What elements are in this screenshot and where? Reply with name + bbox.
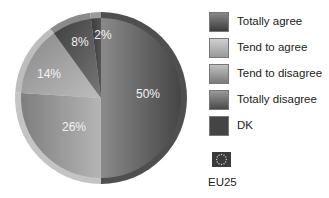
- legend-label: Totally agree: [237, 15, 302, 27]
- swatch-tend-to-agree: [209, 38, 229, 58]
- legend-item-totally-agree: Totally agree: [209, 12, 329, 32]
- swatch-totally-agree: [209, 12, 229, 32]
- pie-chart: 50%26%14%8%2%: [0, 0, 205, 198]
- pie-value-label: 8%: [71, 35, 89, 49]
- legend-label: Totally disagree: [237, 93, 317, 105]
- pie-value-label: 50%: [136, 87, 160, 101]
- legend-item-totally-disagree: Totally disagree: [209, 90, 329, 110]
- pie-value-label: 26%: [62, 120, 86, 134]
- region-label: EU25: [208, 176, 237, 188]
- legend-item-tend-to-disagree: Tend to disagree: [209, 64, 329, 84]
- swatch-dk: [209, 116, 229, 136]
- legend-label: Tend to disagree: [237, 67, 322, 79]
- legend-label: DK: [237, 119, 253, 131]
- eu-flag-icon: [212, 152, 231, 167]
- pie-value-label: 2%: [94, 28, 112, 42]
- pie-value-label: 14%: [37, 67, 61, 81]
- legend-label: Tend to agree: [237, 41, 307, 53]
- swatch-totally-disagree: [209, 90, 229, 110]
- swatch-tend-to-disagree: [209, 64, 229, 84]
- legend-item-tend-to-agree: Tend to agree: [209, 38, 329, 58]
- legend-item-dk: DK: [209, 116, 329, 136]
- pie-slice-tend-to-agree: [21, 93, 101, 178]
